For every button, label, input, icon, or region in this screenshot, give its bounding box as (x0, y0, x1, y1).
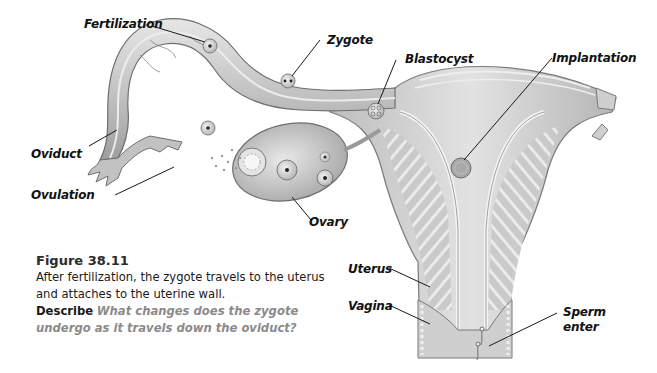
label-zygote: Zygote (327, 33, 373, 47)
label-implantation: Implantation (552, 51, 636, 65)
label-ovulation: Ovulation (31, 188, 95, 202)
egg-in-oviduct-icon (201, 121, 215, 135)
blastocyst-icon (368, 103, 384, 119)
figure-number: Figure 38.11 (36, 252, 336, 269)
label-vagina: Vagina (348, 299, 393, 313)
figure-description: After fertilization, the zygote travels … (36, 269, 336, 303)
implanted-embryo-icon (451, 158, 471, 178)
label-blastocyst: Blastocyst (405, 52, 473, 66)
label-ovary: Ovary (309, 215, 348, 229)
label-uterus: Uterus (348, 262, 392, 276)
ovary-shape (211, 113, 380, 211)
figure-question: Describe What changes does the zygote un… (36, 304, 298, 335)
fertilized-egg-icon (203, 39, 217, 53)
prompt-verb: Describe (36, 304, 93, 318)
ruptured-follicle-icon (238, 148, 266, 176)
label-oviduct: Oviduct (31, 147, 82, 161)
label-sperm-enter-line1: Sperm (563, 305, 606, 319)
label-sperm-enter-line2: enter (563, 320, 598, 334)
label-fertilization: Fertilization (84, 17, 163, 31)
zygote-icon (281, 74, 295, 88)
figure-caption: Figure 38.11 After fertilization, the zy… (36, 252, 336, 337)
